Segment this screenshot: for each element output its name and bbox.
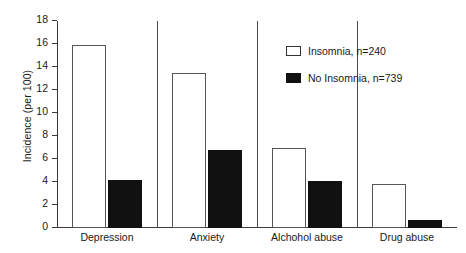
bar <box>408 220 442 228</box>
chart-legend: Insomnia, n=240No Insomnia, n=739 <box>286 44 402 98</box>
legend-item: Insomnia, n=240 <box>286 44 402 58</box>
x-axis-tick-label: Drug abuse <box>357 231 457 243</box>
y-axis-tick-label: 8 <box>42 128 48 140</box>
y-axis-tick-label: 14 <box>36 59 48 71</box>
x-axis-tick-label: Anxiety <box>157 231 257 243</box>
bar <box>108 180 142 228</box>
y-axis-tick-label: 0 <box>42 220 48 232</box>
bar <box>272 148 306 229</box>
legend-swatch-open <box>286 46 301 56</box>
y-axis-label: Incidence (per 100) <box>21 26 33 206</box>
bar-chart-figure: Incidence (per 100) 024681012141618 Depr… <box>0 0 466 253</box>
y-axis-tick-label: 4 <box>42 174 48 186</box>
bar <box>372 184 406 228</box>
y-axis-tick-label: 6 <box>42 151 48 163</box>
bar <box>308 181 342 228</box>
bar <box>72 45 106 228</box>
x-axis-tick-label: Alchohol abuse <box>257 231 357 243</box>
y-axis-tick-label: 16 <box>36 36 48 48</box>
bar-group <box>157 21 257 228</box>
bar <box>208 150 242 228</box>
bar <box>172 73 206 228</box>
legend-label: Insomnia, n=240 <box>308 45 386 57</box>
legend-label: No Insomnia, n=739 <box>308 72 402 84</box>
y-axis-tick-label: 2 <box>42 197 48 209</box>
y-axis-tick-label: 18 <box>36 13 48 25</box>
legend-item: No Insomnia, n=739 <box>286 71 402 85</box>
legend-swatch-filled <box>286 73 301 83</box>
y-axis-tick-label: 10 <box>36 105 48 117</box>
bar-group <box>57 21 157 228</box>
y-axis-tick-label: 12 <box>36 82 48 94</box>
x-axis-tick-label: Depression <box>57 231 157 243</box>
